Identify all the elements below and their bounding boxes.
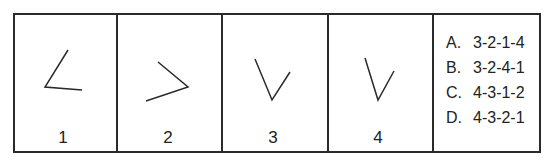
option-d[interactable]: D.4-3-2-1 (446, 105, 525, 130)
option-value: 3-2-4-1 (473, 59, 525, 76)
angle-figure-2 (146, 62, 188, 101)
option-b[interactable]: B.3-2-4-1 (446, 55, 525, 80)
option-value: 4-3-2-1 (473, 109, 525, 126)
option-letter: B. (446, 55, 473, 80)
option-value: 4-3-1-2 (473, 84, 525, 101)
angle-figure-3 (255, 59, 290, 100)
answer-options: A.3-2-1-4 B.3-2-4-1 C.4-3-1-2 D.4-3-2-1 (446, 30, 525, 130)
option-letter: D. (446, 105, 473, 130)
option-letter: C. (446, 80, 473, 105)
angle-figure-1 (45, 50, 82, 90)
option-letter: A. (446, 30, 473, 55)
option-a[interactable]: A.3-2-1-4 (446, 30, 525, 55)
angle-figure-4 (365, 58, 394, 100)
panel-label-1: 1 (43, 128, 83, 148)
panel-label-4: 4 (358, 128, 398, 148)
option-value: 3-2-1-4 (473, 34, 525, 51)
option-c[interactable]: C.4-3-1-2 (446, 80, 525, 105)
panel-label-2: 2 (148, 128, 188, 148)
panel-label-3: 3 (253, 128, 293, 148)
